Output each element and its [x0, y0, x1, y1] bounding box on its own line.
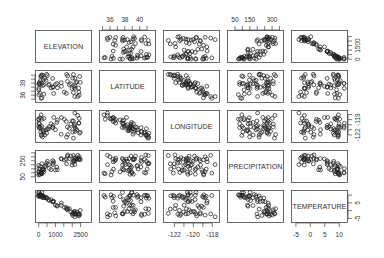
svg-text:300: 300: [267, 16, 278, 23]
svg-text:38: 38: [121, 16, 129, 23]
svg-text:1000: 1000: [48, 231, 63, 238]
longitude-x-axis: -122-120-118: [168, 223, 219, 238]
scatter-panel: [228, 111, 284, 143]
scatter-panel: [292, 111, 348, 143]
scatter-panel: [228, 191, 284, 223]
variable-label: ELEVATION: [44, 42, 83, 51]
diagonal-label-panel: ELEVATION: [36, 31, 92, 63]
diagonal-label-panel: PRECIPITATION: [228, 151, 284, 183]
scatter-panel: [36, 191, 92, 223]
svg-text:50: 50: [231, 16, 239, 23]
svg-text:10: 10: [336, 231, 344, 238]
longitude-y-axis: -122-119: [348, 113, 361, 141]
svg-text:39: 39: [19, 79, 26, 87]
scatter-panel: [292, 71, 348, 103]
diagonal-label-panel: TEMPERATURE: [292, 191, 348, 223]
precipitation-x-axis: 50150300: [231, 16, 279, 30]
svg-text:1500: 1500: [354, 38, 361, 53]
svg-text:-5: -5: [293, 231, 299, 238]
svg-text:0: 0: [354, 57, 361, 61]
svg-text:5: 5: [354, 201, 361, 205]
scatterplot-matrix: ELEVATIONLATITUDELONGITUDEPRECIPITATIONT…: [0, 0, 384, 258]
variable-label: LONGITUDE: [171, 122, 213, 131]
svg-text:250: 250: [19, 155, 26, 166]
scatter-panel: [228, 31, 284, 63]
variable-label: PRECIPITATION: [228, 162, 282, 171]
svg-text:-120: -120: [187, 231, 200, 238]
diagonal-label-panel: LONGITUDE: [164, 111, 220, 143]
scatter-panel: [164, 71, 220, 103]
scatter-panel: [100, 31, 156, 63]
svg-text:-5: -5: [354, 215, 361, 221]
svg-text:0: 0: [309, 231, 313, 238]
scatter-panel: [36, 111, 92, 143]
scatter-panel: [36, 151, 92, 183]
svg-text:50: 50: [19, 173, 26, 181]
scatter-panel: [292, 31, 348, 63]
elevation-x-axis: 010002500: [37, 223, 88, 238]
scatter-panel: [164, 191, 220, 223]
temperature-x-axis: -50510: [293, 223, 343, 238]
svg-text:40: 40: [136, 16, 144, 23]
svg-text:-122: -122: [354, 128, 361, 141]
scatter-panel: [100, 151, 156, 183]
elevation-y-axis: 01500: [348, 37, 361, 61]
variable-label: LATITUDE: [110, 82, 144, 91]
scatter-panel: [100, 111, 156, 143]
precipitation-y-axis: 50250: [19, 153, 35, 181]
scatter-panel: [228, 71, 284, 103]
temperature-y-axis: -55: [348, 195, 361, 221]
svg-text:-119: -119: [354, 113, 361, 126]
svg-text:0: 0: [37, 231, 41, 238]
scatter-panel: [164, 31, 220, 63]
scatter-panel: [164, 151, 220, 183]
svg-text:36: 36: [19, 91, 26, 99]
svg-text:-118: -118: [206, 231, 219, 238]
latitude-x-axis: 363840: [102, 16, 147, 30]
svg-text:5: 5: [323, 231, 327, 238]
scatter-panel: [292, 151, 348, 183]
svg-text:-122: -122: [168, 231, 181, 238]
scatter-panel: [36, 71, 92, 103]
svg-text:36: 36: [106, 16, 114, 23]
diagonal-label-panel: LATITUDE: [100, 71, 156, 103]
svg-text:2500: 2500: [73, 231, 88, 238]
variable-label: TEMPERATURE: [293, 202, 347, 211]
svg-text:150: 150: [244, 16, 255, 23]
scatter-panel: [100, 191, 156, 223]
latitude-y-axis: 3639: [19, 75, 35, 99]
